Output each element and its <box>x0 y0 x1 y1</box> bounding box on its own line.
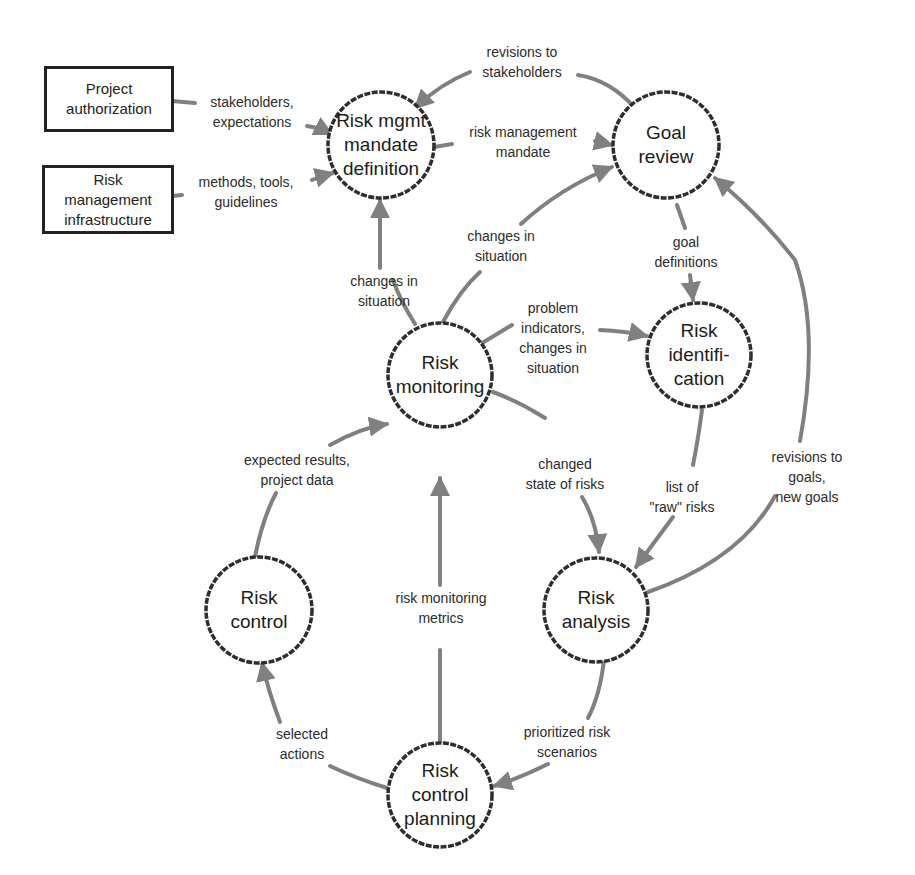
edge-control-to-monitoring-bottom <box>255 493 276 557</box>
node-analysis-label: Risk analysis <box>536 555 656 665</box>
edge-analysis-to-planning-top <box>588 660 604 718</box>
edge-label-changes-in-situation-mandate: changes in situation <box>350 271 418 311</box>
edge-label-changes-in-situation-goal: changes in situation <box>467 226 535 266</box>
edge-monitoring-to-analysis-top <box>493 392 545 418</box>
edge-label-expected-results: expected results, project data <box>244 450 350 490</box>
edge-label-list-of-raw-risks: list of "raw" risks <box>649 477 714 517</box>
edge-label-prioritized-risk-scenarios: prioritized risk scenarios <box>524 722 610 762</box>
edge-label-methods-tools-guidelines: methods, tools, guidelines <box>199 172 294 212</box>
edge-label-risk-management-mandate: risk management mandate <box>469 122 576 162</box>
edge-label-revisions-to-stakeholders: revisions to stakeholders <box>482 42 561 82</box>
edge-label-revisions-to-goals: revisions to goals, new goals <box>753 447 861 507</box>
node-identification-label: Risk identifi- cation <box>639 300 759 410</box>
edge-label-stakeholders-expectations: stakeholders, expectations <box>210 92 293 132</box>
edge-goal-to-identification-top <box>677 205 685 228</box>
source-risk-management-infrastructure: Risk management infrastructure <box>42 165 174 234</box>
edge-project-authorization-to-mandate <box>172 101 195 103</box>
edge-monitoring-to-analysis-arrow <box>582 497 599 552</box>
edge-label-risk-monitoring-metrics: risk monitoring metrics <box>395 588 486 628</box>
edge-monitoring-to-goal-bottom <box>443 272 480 322</box>
edge-analysis-to-planning-arrow <box>494 764 548 786</box>
node-planning-label: Risk control planning <box>380 740 500 850</box>
edge-label-goal-definitions: goal definitions <box>654 232 717 272</box>
source-project-authorization: Project authorization <box>44 66 174 132</box>
edge-identification-to-analysis-top <box>693 410 702 465</box>
edge-goal-to-identification-arrow <box>690 275 693 300</box>
edge-monitoring-to-goal-top <box>521 167 612 224</box>
edge-label-problem-indicators: problem indicators, changes in situation <box>519 298 587 378</box>
node-monitoring-label: Risk monitoring <box>380 320 500 430</box>
edge-control-to-monitoring-arrow <box>330 424 387 445</box>
node-control-label: Risk control <box>199 555 319 665</box>
edge-planning-to-control-right <box>330 766 387 788</box>
node-mandate-label: Risk mgmt mandate definition <box>321 90 441 200</box>
edge-planning-to-control-arrow <box>262 663 280 722</box>
node-goal-review-label: Goal review <box>606 90 726 200</box>
edge-label-selected-actions: selected actions <box>276 724 328 764</box>
edge-label-changed-state-of-risks: changed state of risks <box>526 454 605 494</box>
